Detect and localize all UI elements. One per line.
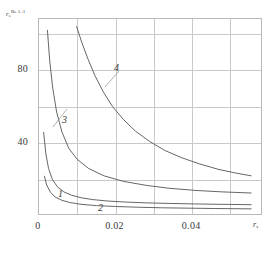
x-tick-label: 0.04 (169, 220, 213, 231)
curve-label-1: 1 (58, 188, 63, 199)
curve-label-3: 3 (62, 114, 67, 125)
y-tick-label: 80 (0, 63, 28, 74)
y-tick-label: 40 (0, 136, 28, 147)
leader-line-4 (105, 71, 119, 87)
y-axis-label: reRe 1..1 (6, 9, 25, 18)
curve-1 (44, 132, 252, 205)
y-axis-label-sup: Re 1..1 (11, 9, 25, 14)
curve-3 (47, 30, 251, 193)
x-tick-label: 0.02 (93, 220, 137, 231)
curves-layer (39, 19, 263, 216)
x-axis-label-sub: s (256, 224, 258, 229)
x-axis-label: rs (253, 220, 258, 229)
plot-area (38, 18, 262, 215)
curve-label-4: 4 (114, 62, 119, 73)
x-tick-label: 0 (16, 220, 60, 231)
chart-root: reRe 1..1 4080 00.020.04 1234 rs (0, 0, 275, 254)
curve-4 (77, 26, 252, 176)
curve-label-2: 2 (98, 202, 103, 213)
